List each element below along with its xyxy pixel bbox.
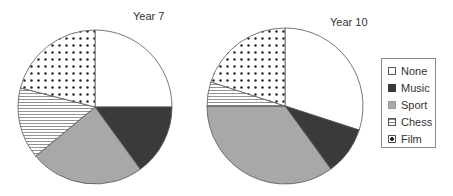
pie-slice-none (95, 30, 172, 107)
legend-item-none: None (388, 64, 427, 78)
legend-label: Sport (401, 99, 427, 111)
pie-year-7 (18, 30, 172, 184)
legend-label: None (401, 65, 427, 77)
chart-title-year-7: Year 7 (133, 10, 164, 22)
legend-label: Chess (401, 116, 432, 128)
legend-swatch-film (388, 135, 396, 143)
legend-label: Music (401, 82, 430, 94)
legend-label: Film (401, 133, 422, 145)
legend-item-sport: Sport (388, 98, 427, 112)
legend-item-film: Film (388, 132, 422, 146)
legend-item-chess: Chess (388, 115, 432, 129)
pie-year-10 (207, 28, 363, 184)
legend-swatch-sport (388, 101, 396, 109)
legend-swatch-music (388, 84, 396, 92)
legend-item-music: Music (388, 81, 430, 95)
chart-title-year-10: Year 10 (330, 16, 368, 28)
legend-swatch-chess (388, 118, 396, 126)
legend-swatch-none (388, 67, 396, 75)
legend: None Music Sport Chess Film (381, 58, 436, 148)
